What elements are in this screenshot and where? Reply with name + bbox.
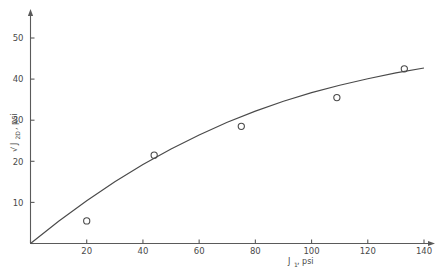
chart-figure: 20406080100120140 1020304050 J 1 , psi √… — [0, 0, 438, 273]
y-tick-label: 10 — [13, 198, 24, 208]
y-tick-label: 50 — [13, 33, 24, 43]
x-axis-title-unit: , psi — [297, 257, 314, 266]
fit-curve — [31, 68, 425, 244]
y-axis-title-base: J — [10, 143, 19, 146]
data-point-marker — [84, 218, 90, 224]
scatter-plot-canvas: 20406080100120140 1020304050 J 1 , psi √… — [0, 0, 438, 273]
data-point-marker — [334, 94, 340, 100]
x-tick-label: 40 — [138, 246, 149, 256]
y-axis-title-radical: √ — [10, 146, 19, 152]
y-tick-label: 20 — [13, 157, 24, 167]
x-tick-label: 80 — [250, 246, 261, 256]
y-axis-title-subscript: 2D — [14, 131, 21, 140]
data-points-group — [84, 66, 408, 224]
x-axis-ticks: 20406080100120140 — [31, 240, 433, 256]
data-point-marker — [238, 123, 244, 129]
y-tick-label: 40 — [13, 74, 24, 84]
y-axis-title: √ J 2D , psi — [10, 113, 21, 152]
data-point-marker — [151, 152, 157, 158]
x-tick-label: 60 — [194, 246, 205, 256]
x-tick-label: 20 — [81, 246, 92, 256]
x-tick-label: 140 — [416, 246, 432, 256]
x-tick-label: 100 — [303, 246, 319, 256]
x-axis-title: J 1 , psi — [287, 257, 314, 268]
y-axis-arrowhead — [28, 9, 33, 16]
x-axis-title-base: J — [287, 257, 290, 266]
x-tick-label: 120 — [360, 246, 376, 256]
y-axis-title-unit: , psi — [10, 113, 19, 130]
axes-group — [28, 9, 435, 246]
